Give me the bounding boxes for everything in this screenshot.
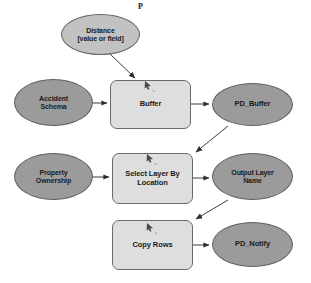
connector-distance-to-buffer[interactable] [110, 54, 135, 78]
parameter-flag-distance: P [138, 2, 143, 11]
variable-pd-notify[interactable]: PD_Notify [212, 222, 293, 267]
process-copy-rows[interactable]: Copy Rows [112, 220, 193, 270]
process-buffer-label: Buffer [111, 100, 190, 108]
variable-pd-notify-label: PD_Notify [213, 240, 292, 248]
modelbuilder-canvas[interactable]: P Distance [value or field] Accident Sch… [0, 0, 311, 283]
variable-output-layer-name[interactable]: Output Layer Name [212, 153, 293, 200]
connector-output-layer-name-to-copy-rows[interactable] [196, 200, 228, 219]
process-buffer[interactable]: Buffer [110, 80, 191, 129]
variable-property-ownership[interactable]: Property Ownership [14, 153, 93, 200]
variable-pd-buffer-label: PD_Buffer [213, 100, 292, 108]
variable-property-ownership-label: Property Ownership [15, 169, 92, 184]
variable-distance[interactable]: Distance [value or field] [61, 14, 140, 55]
process-copy-rows-label: Copy Rows [113, 241, 192, 249]
process-select-layer-by-location[interactable]: Select Layer By Location [112, 153, 193, 204]
process-select-layer-by-location-label: Select Layer By Location [113, 170, 192, 186]
connector-pd-buffer-to-select-layer[interactable] [196, 126, 228, 152]
variable-distance-label: Distance [value or field] [62, 27, 139, 42]
variable-pd-buffer[interactable]: PD_Buffer [212, 83, 293, 126]
variable-output-layer-name-label: Output Layer Name [213, 169, 292, 184]
variable-accident-schema-label: Accident Schema [15, 95, 92, 110]
variable-accident-schema[interactable]: Accident Schema [14, 79, 93, 126]
